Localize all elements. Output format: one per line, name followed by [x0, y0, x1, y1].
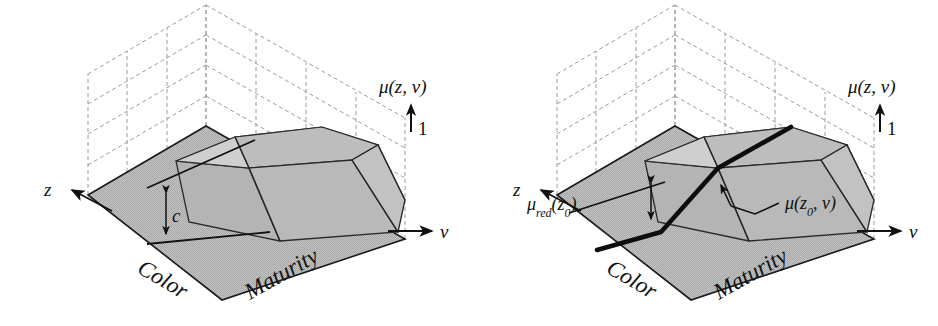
axis-mu-label: μ(z, v)	[378, 76, 427, 98]
dimension-c-label: c	[172, 205, 181, 226]
panel-right: μred(z0) μ(z0, v) z v	[469, 0, 938, 326]
mu-red-subscript: red	[536, 206, 553, 220]
axis-z-label: z	[43, 179, 52, 200]
axis-mu-tick-1: 1	[418, 118, 428, 139]
axis-mu-label: μ(z, v)	[847, 76, 896, 98]
right-surface-plot: μred(z0) μ(z0, v) z v	[469, 0, 938, 326]
mu-glyph: μ	[526, 194, 536, 214]
axis-mu-tick-1: 1	[887, 118, 897, 139]
axis-v-label: v	[440, 221, 449, 242]
panel-left: c z v μ(z, v) 1 Color Maturity	[0, 0, 469, 326]
mu-z0-tail: , v)	[813, 193, 836, 214]
left-surface-plot: c z v μ(z, v) 1 Color Maturity	[0, 0, 469, 326]
axis-z-label: z	[512, 179, 521, 200]
axis-v-label: v	[909, 221, 918, 242]
axis-mu: μ(z, v) 1	[378, 76, 428, 139]
axis-mu: μ(z, v) 1	[847, 76, 897, 139]
mu-z0-main: μ(z	[784, 193, 807, 214]
figure-root: c z v μ(z, v) 1 Color Maturity	[0, 0, 938, 326]
mu-red-tail2: )	[570, 194, 577, 215]
